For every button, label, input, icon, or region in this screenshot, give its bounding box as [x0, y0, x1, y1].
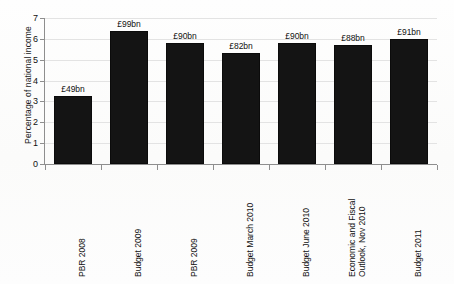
x-axis-category-label: PBR 2009: [189, 238, 199, 277]
x-axis-category-label: Economic and FiscalOutlook, Nov 2010: [347, 199, 367, 277]
x-cat-label-line: Budget 2009: [133, 229, 143, 277]
x-cat-label-line: Outlook, Nov 2010: [357, 199, 367, 277]
x-cat-label-line: Budget June 2010: [301, 208, 311, 277]
x-axis-category-labels: PBR 2008Budget 2009PBR 2009Budget March …: [0, 0, 454, 284]
bar-chart: Percentage of national income 01234567 £…: [0, 0, 454, 284]
x-axis-category-label: Budget 2011: [413, 229, 423, 277]
x-cat-label-line: Budget 2011: [413, 229, 423, 277]
x-axis-category-label: PBR 2008: [77, 238, 87, 277]
x-axis-category-label: Budget March 2010: [245, 203, 255, 277]
x-axis-category-label: Budget June 2010: [301, 208, 311, 277]
x-cat-label-line: PBR 2008: [77, 238, 87, 277]
x-cat-label-line: Economic and Fiscal: [347, 199, 357, 277]
x-cat-label-line: Budget March 2010: [245, 203, 255, 277]
x-cat-label-line: PBR 2009: [189, 238, 199, 277]
x-axis-category-label: Budget 2009: [133, 229, 143, 277]
